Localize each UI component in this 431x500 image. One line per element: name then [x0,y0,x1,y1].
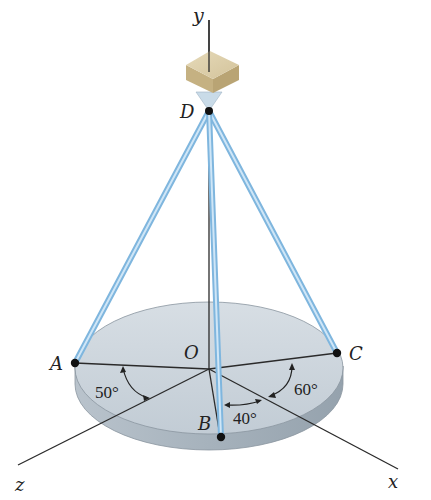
point-D [205,107,213,115]
angle-40: 40° [233,409,257,428]
label-B: B [197,413,211,434]
label-A: A [48,353,63,374]
angle-50: 50° [95,383,119,402]
point-A [71,359,79,367]
weight-box [186,20,239,108]
point-C [333,349,341,357]
label-C: C [349,343,363,364]
label-z: z [14,474,25,495]
tripod-disk-diagram: y D A O C B z x 50° 40° 60° [0,0,431,500]
box-connector [196,92,222,108]
label-y: y [192,4,204,26]
label-x: x [388,471,398,492]
label-O: O [184,342,199,363]
point-B [217,433,225,441]
label-D: D [179,101,195,122]
angle-60: 60° [294,380,318,399]
